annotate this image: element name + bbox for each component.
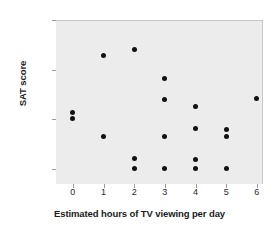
x-axis-tick-label: 6: [245, 188, 269, 197]
data-point: [224, 166, 229, 171]
data-point: [162, 76, 167, 81]
data-point: [193, 157, 198, 162]
data-point: [254, 96, 259, 101]
x-axis-tick-label: 5: [214, 188, 238, 197]
x-axis-title: Estimated hours of TV viewing per day: [0, 208, 279, 219]
y-axis-title: SAT score: [17, 34, 28, 134]
data-point: [101, 53, 106, 58]
x-axis-tick-label: 3: [153, 188, 177, 197]
data-point: [132, 166, 137, 171]
data-point: [101, 134, 106, 139]
scatter-plot-figure: SAT score 400500600700 0123456 Estimated…: [0, 0, 279, 232]
x-axis-tick-mark: [196, 184, 197, 188]
x-axis-tick-mark: [104, 184, 105, 188]
data-point: [193, 166, 198, 171]
data-point: [162, 134, 167, 139]
x-axis-tick-mark: [165, 184, 166, 188]
data-point: [224, 134, 229, 139]
x-axis-tick-mark: [226, 184, 227, 188]
x-axis-tick-label: 1: [92, 188, 116, 197]
data-point: [70, 110, 75, 115]
plot-area: [56, 20, 263, 184]
data-point: [132, 156, 137, 161]
data-point: [162, 166, 167, 171]
x-axis-tick-label: 4: [184, 188, 208, 197]
x-axis-tick-label: 2: [122, 188, 146, 197]
x-axis-tick-label: 0: [61, 188, 85, 197]
x-axis-tick-mark: [257, 184, 258, 188]
data-point: [70, 116, 75, 121]
data-point: [224, 127, 229, 132]
data-point: [193, 104, 198, 109]
data-point: [162, 97, 167, 102]
data-point: [132, 47, 137, 52]
x-axis-tick-mark: [134, 184, 135, 188]
data-point: [193, 126, 198, 131]
x-axis-tick-mark: [73, 184, 74, 188]
